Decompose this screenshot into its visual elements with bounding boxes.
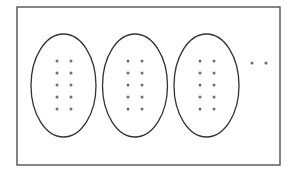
dot [70,60,73,63]
dot [199,72,202,75]
dot [213,60,216,63]
dot [141,108,144,111]
group-2 [103,34,168,137]
dot [70,108,73,111]
dot [56,60,59,63]
dot [127,108,130,111]
dot [199,96,202,99]
group-ellipse [174,34,239,137]
dot [70,84,73,87]
dot [56,72,59,75]
dot [141,96,144,99]
continuation-dots [250,61,267,64]
ellipsis-dot [264,61,267,64]
dot [213,96,216,99]
group-1 [31,34,96,137]
group-3 [174,34,239,137]
dot [127,72,130,75]
dot [141,84,144,87]
dot [199,108,202,111]
dot [213,72,216,75]
dot [141,60,144,63]
diagram-canvas [0,0,295,174]
groups [31,34,239,137]
dot [199,84,202,87]
group-ellipse [31,34,96,137]
dot [56,108,59,111]
group-ellipse [103,34,168,137]
dot [56,96,59,99]
dot [213,84,216,87]
dot [127,96,130,99]
dot [199,60,202,63]
dot [70,72,73,75]
dot [213,108,216,111]
dot [127,60,130,63]
dot [56,84,59,87]
dot [127,84,130,87]
dot [70,96,73,99]
dot [141,72,144,75]
ellipsis-dot [250,61,253,64]
